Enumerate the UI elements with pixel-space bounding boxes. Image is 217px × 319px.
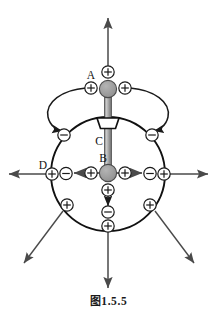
caption-cjk-label: 图	[90, 295, 102, 308]
charge-q-inner-left	[85, 167, 97, 179]
funnel-collar-icon	[97, 118, 119, 129]
charge-q-circle-upper-right	[146, 129, 158, 141]
figure-container: A B C D 图1.5.5	[0, 0, 217, 319]
physics-diagram: A B C D	[0, 0, 217, 319]
charge-q-outer-left	[46, 168, 58, 180]
charge-q-circle-lower-right	[144, 199, 156, 211]
charge-q-A-left	[85, 82, 97, 94]
arrow-down-left	[24, 211, 63, 263]
charge-q-outer-bottom	[102, 220, 114, 232]
charge-q-circle-left	[60, 167, 72, 179]
sphere-B	[99, 164, 116, 181]
sphere-A	[99, 80, 116, 97]
label-C: C	[95, 135, 103, 147]
figure-caption: 图1.5.5	[0, 292, 217, 308]
label-A: A	[87, 69, 96, 81]
charge-q-top-apex	[102, 66, 114, 78]
charge-q-inner-right	[119, 167, 131, 179]
charge-q-inner-bottom	[102, 184, 114, 196]
caption-number: 1.5.5	[101, 295, 127, 307]
label-B: B	[99, 152, 107, 164]
charge-q-outer-right	[158, 168, 170, 180]
charge-q-circle-lower-left	[61, 199, 73, 211]
charge-q-A-right	[119, 82, 131, 94]
arrow-down-right	[155, 211, 194, 263]
label-D: D	[39, 159, 47, 171]
charge-q-circle-right	[144, 167, 156, 179]
charge-q-circle-bottom	[102, 206, 114, 218]
charge-q-circle-upper-left	[58, 129, 70, 141]
